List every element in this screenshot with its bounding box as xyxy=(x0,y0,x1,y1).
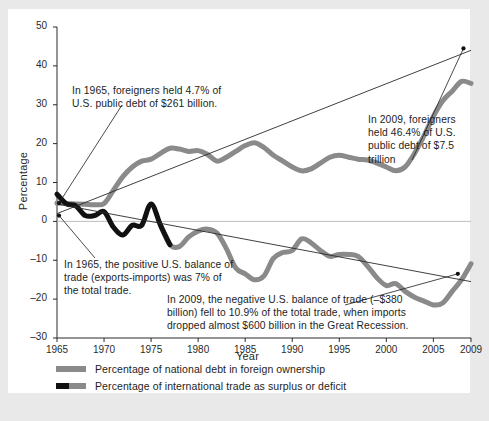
legend-item-debt: Percentage of national debt in foreign o… xyxy=(56,361,456,376)
legend-label-trade: Percentage of international trade as sur… xyxy=(95,380,346,392)
chart-legend: Percentage of national debt in foreign o… xyxy=(56,361,456,395)
leader-trade-1965-endpoint xyxy=(57,213,61,217)
leader-trade-2009-endpoint xyxy=(456,272,460,276)
y-tick-label: 10 xyxy=(21,176,47,187)
legend-swatch-debt-icon xyxy=(56,366,86,372)
legend-item-trade: Percentage of international trade as sur… xyxy=(56,378,456,393)
leader-trade-1965 xyxy=(59,216,95,258)
x-tick-label: 1990 xyxy=(272,344,312,355)
x-tick-label: 2005 xyxy=(413,344,453,355)
x-tick-label: 1975 xyxy=(131,344,171,355)
x-tick-label: 2009 xyxy=(451,344,489,355)
y-tick-label: 0 xyxy=(21,214,47,225)
y-tick-label: –30 xyxy=(21,331,47,342)
chart-figure: Percentage Year 50403020100–10–20–30 196… xyxy=(0,0,489,421)
y-tick-label: 30 xyxy=(21,98,47,109)
annotation-trade-2009: In 2009, the negative U.S. balance of tr… xyxy=(167,293,419,333)
x-tick-label: 1970 xyxy=(84,344,124,355)
y-tick-label: 20 xyxy=(21,137,47,148)
y-tick-label: 50 xyxy=(21,20,47,31)
annotation-trade-1965: In 1965, the positive U.S. balance of tr… xyxy=(64,258,236,298)
x-tick-label: 1985 xyxy=(225,344,265,355)
x-tick-label: 2000 xyxy=(366,344,406,355)
y-tick-label: –10 xyxy=(21,253,47,264)
annotation-debt-2009: In 2009, foreigners held 46.4% of U.S. p… xyxy=(368,113,472,166)
x-tick-label: 1980 xyxy=(178,344,218,355)
leader-debt-1965-endpoint xyxy=(57,201,61,205)
annotation-debt-1965: In 1965, foreigners held 4.7% of U.S. pu… xyxy=(72,84,222,110)
x-tick-label: 1995 xyxy=(319,344,359,355)
y-tick-label: –20 xyxy=(21,292,47,303)
legend-label-debt: Percentage of national debt in foreign o… xyxy=(95,363,325,375)
x-tick-label: 1965 xyxy=(37,344,77,355)
legend-swatch-trade-icon xyxy=(56,383,86,389)
y-tick-label: 40 xyxy=(21,59,47,70)
leader-debt-2009-endpoint xyxy=(461,46,465,50)
